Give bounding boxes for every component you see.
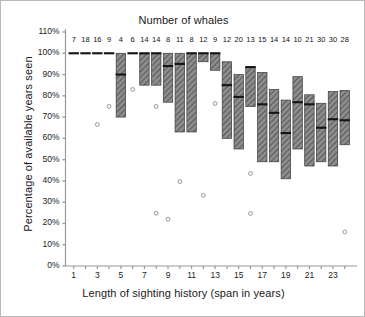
y-axis-tick-label: 70%: [24, 111, 60, 121]
x-axis-tick-label: 15: [230, 270, 248, 280]
y-axis-tick-label: 90%: [24, 69, 60, 79]
outlier-point: [107, 105, 111, 109]
y-axis-tick-label: 110%: [24, 26, 60, 36]
outlier-point: [131, 88, 135, 92]
boxplot-box: [175, 53, 184, 132]
boxplot-box: [210, 53, 219, 70]
boxplot-box: [281, 100, 290, 179]
whale-count-label: 28: [335, 35, 355, 44]
y-axis-tick-label: 100%: [24, 47, 60, 57]
y-axis-tick-label: 20%: [24, 217, 60, 227]
chart-figure: Number of whales Percentage of available…: [0, 0, 365, 317]
y-axis-tick-label: 40%: [24, 175, 60, 185]
x-axis-tick-label: 5: [112, 270, 130, 280]
boxplot-box: [234, 75, 243, 149]
y-axis-tick-label: 10%: [24, 239, 60, 249]
y-axis-tick-label: 50%: [24, 154, 60, 164]
outlier-point: [249, 172, 253, 176]
x-axis-tick-label: 13: [206, 270, 224, 280]
x-axis-tick-label: 1: [65, 270, 83, 280]
y-axis-tick-label: 30%: [24, 196, 60, 206]
x-axis-tick-label: 7: [135, 270, 153, 280]
x-axis-tick-label: 3: [88, 270, 106, 280]
boxplot-box: [199, 53, 208, 62]
boxplot-box: [116, 53, 125, 117]
boxplot-box: [316, 103, 325, 162]
x-axis-tick-label: 23: [324, 270, 342, 280]
outlier-point: [201, 193, 205, 197]
x-axis-tick-label: 21: [300, 270, 318, 280]
boxplot-box: [222, 62, 231, 139]
outlier-point: [154, 105, 158, 109]
outlier-point: [154, 211, 158, 215]
y-axis-tick-label: 0%: [24, 260, 60, 270]
boxplot-box: [258, 72, 267, 161]
y-axis-tick-label: 80%: [24, 90, 60, 100]
boxplot-box: [152, 53, 161, 85]
boxplot-box: [293, 77, 302, 149]
outlier-point: [343, 230, 347, 234]
x-axis-tick-label: 11: [183, 270, 201, 280]
y-axis-tick-label: 60%: [24, 132, 60, 142]
x-axis-tick-label: 9: [159, 270, 177, 280]
boxplot-box: [187, 53, 196, 132]
boxplot-box: [269, 89, 278, 161]
boxplot-box: [140, 53, 149, 85]
outlier-point: [178, 180, 182, 184]
boxplot-box: [163, 53, 172, 102]
outlier-point: [213, 102, 217, 106]
boxplot-box: [328, 92, 337, 166]
x-axis-tick-label: 19: [277, 270, 295, 280]
boxplot-box: [246, 67, 255, 106]
boxplot-box: [340, 91, 349, 145]
boxplot-boxes-layer: [116, 53, 349, 179]
outlier-point: [95, 123, 99, 127]
outlier-point: [166, 217, 170, 221]
x-axis-tick-label: 17: [253, 270, 271, 280]
outlier-point: [249, 212, 253, 216]
boxplot-box: [305, 95, 314, 166]
